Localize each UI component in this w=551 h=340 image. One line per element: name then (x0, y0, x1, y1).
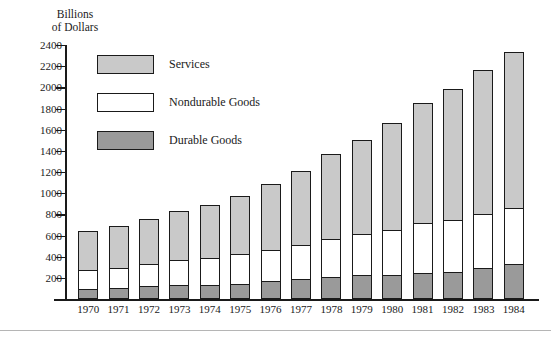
bar-segment[interactable] (230, 254, 250, 285)
bar-segment[interactable] (321, 239, 341, 278)
bar-segment[interactable] (352, 275, 372, 299)
bar-segment[interactable] (504, 52, 524, 209)
bar-segment[interactable] (200, 258, 220, 286)
bar-segment[interactable] (413, 103, 433, 224)
bar-segment[interactable] (169, 211, 189, 261)
bar-segment[interactable] (109, 287, 129, 299)
bar-segment[interactable] (504, 264, 524, 299)
bar-segment[interactable] (139, 219, 159, 266)
bar-segment[interactable] (382, 230, 402, 277)
y-tick-mark (56, 299, 66, 300)
bar-segment[interactable] (78, 231, 98, 271)
legend-label: Durable Goods (169, 133, 242, 148)
x-axis-line (54, 299, 539, 301)
bar-segment[interactable] (321, 276, 341, 299)
x-tick-label: 1984 (492, 303, 536, 315)
bar-segment[interactable] (291, 171, 311, 246)
bar-segment[interactable] (473, 213, 493, 269)
bar-segment[interactable] (443, 272, 463, 299)
bar-segment[interactable] (321, 154, 341, 240)
y-tick-label: 600 (46, 230, 63, 242)
y-tick-label: 1200 (40, 166, 62, 178)
y-tick-label: 2400 (40, 39, 62, 51)
bar-segment[interactable] (413, 273, 433, 299)
bar-segment[interactable] (261, 281, 281, 299)
bar-segment[interactable] (382, 275, 402, 299)
bar-series-layer (66, 45, 536, 299)
plot-area: 2004006008001000120014001600180020002200… (66, 45, 536, 299)
legend-label: Services (169, 57, 210, 72)
footer-divider (0, 330, 551, 331)
bar-segment[interactable] (78, 270, 98, 290)
bar-segment[interactable] (169, 284, 189, 299)
bar-segment[interactable] (200, 205, 220, 259)
y-tick-label: 1000 (40, 187, 62, 199)
bar-segment[interactable] (504, 207, 524, 265)
y-tick-label: 800 (46, 208, 63, 220)
bar-segment[interactable] (261, 249, 281, 282)
bar-segment[interactable] (169, 260, 189, 286)
y-tick-label: 2000 (40, 81, 62, 93)
bar-segment[interactable] (139, 264, 159, 287)
legend-label: Nondurable Goods (169, 95, 260, 110)
bar-segment[interactable] (109, 267, 129, 289)
y-tick-label: 1400 (40, 145, 62, 157)
y-tick-label: 1800 (40, 103, 62, 115)
bar-segment[interactable] (443, 89, 463, 221)
bar-segment[interactable] (291, 278, 311, 299)
bar-segment[interactable] (473, 70, 493, 215)
bar-segment[interactable] (413, 222, 433, 274)
bar-segment[interactable] (230, 196, 250, 255)
bar-segment[interactable] (473, 268, 493, 299)
bar-segment[interactable] (200, 285, 220, 299)
bar-segment[interactable] (382, 123, 402, 231)
bar-segment[interactable] (139, 286, 159, 299)
y-axis-title: Billions of Dollars (30, 8, 120, 34)
bar-segment[interactable] (230, 283, 250, 299)
legend-swatch (97, 93, 154, 112)
bar-segment[interactable] (352, 233, 372, 276)
chart-figure: Billions of Dollars 20040060080010001200… (0, 0, 551, 340)
y-tick-label: 2200 (40, 60, 62, 72)
legend-swatch (97, 55, 154, 74)
bar-segment[interactable] (78, 289, 98, 299)
y-tick-label: 1600 (40, 124, 62, 136)
y-tick-label: 200 (46, 272, 63, 284)
bar-segment[interactable] (109, 226, 129, 269)
legend-swatch (97, 131, 154, 150)
bar-segment[interactable] (291, 244, 311, 279)
bar-segment[interactable] (352, 140, 372, 235)
bar-segment[interactable] (443, 220, 463, 274)
y-tick-label: 400 (46, 251, 63, 263)
bar-segment[interactable] (261, 184, 281, 251)
